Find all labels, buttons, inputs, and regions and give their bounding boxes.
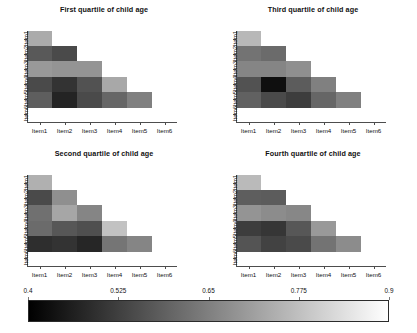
heatmap-cell bbox=[311, 221, 336, 237]
heatmap-cell bbox=[236, 205, 261, 221]
x-axis-tick bbox=[374, 122, 375, 125]
x-axis-label: Item6 bbox=[357, 271, 391, 278]
heatmap-cells bbox=[236, 175, 386, 266]
panel-title: Fourth quartile of child age bbox=[209, 149, 417, 158]
heatmap-cell bbox=[286, 92, 311, 108]
x-axis-tick bbox=[249, 266, 250, 269]
heatmap-cell bbox=[236, 221, 261, 237]
heatmap-cell bbox=[261, 46, 286, 62]
heatmap-cell bbox=[261, 236, 286, 252]
heatmap-cell bbox=[311, 236, 336, 252]
heatmap-cell bbox=[27, 205, 52, 221]
heatmap-cell bbox=[52, 236, 77, 252]
y-axis-label: Item6 bbox=[22, 97, 29, 131]
heatmap-cell bbox=[27, 190, 52, 206]
heatmap-cell bbox=[77, 236, 102, 252]
heatmap-cell bbox=[236, 236, 261, 252]
colorbar-gradient bbox=[28, 300, 389, 322]
colorbar-tick-label: 0.525 bbox=[98, 287, 138, 294]
x-axis-line bbox=[236, 266, 386, 267]
heatmap-cell bbox=[127, 92, 152, 108]
x-axis-line bbox=[27, 122, 177, 123]
heatmap-cell bbox=[127, 236, 152, 252]
heatmap-cell bbox=[336, 92, 361, 108]
x-axis-tick bbox=[90, 122, 91, 125]
panel-fourth-quartile: Fourth quartile of child age Item1Item2I… bbox=[209, 144, 417, 287]
x-axis-tick bbox=[115, 122, 116, 125]
heatmap-cell bbox=[261, 92, 286, 108]
heatmap-cell bbox=[261, 190, 286, 206]
heatmap-cells bbox=[27, 175, 177, 266]
heatmap-cell bbox=[52, 205, 77, 221]
heatmap-cell bbox=[27, 175, 52, 191]
x-axis-label: Item6 bbox=[148, 127, 182, 134]
heatmap-cell bbox=[27, 31, 52, 47]
colorbar-tick-label: 0.9 bbox=[369, 287, 409, 294]
colorbar-tick-mark bbox=[389, 297, 390, 300]
heatmap-cell bbox=[286, 77, 311, 93]
x-axis-tick bbox=[140, 122, 141, 125]
x-axis-tick bbox=[349, 266, 350, 269]
x-axis-tick bbox=[349, 122, 350, 125]
y-axis-label: Item6 bbox=[231, 97, 238, 131]
heatmap-cell bbox=[27, 221, 52, 237]
x-axis-tick bbox=[165, 266, 166, 269]
heatmap-cell bbox=[261, 77, 286, 93]
heatmap-cell bbox=[27, 236, 52, 252]
heatmap-cell bbox=[286, 221, 311, 237]
heatmap-cell bbox=[52, 61, 77, 77]
x-axis-tick bbox=[40, 266, 41, 269]
x-axis-tick bbox=[374, 266, 375, 269]
x-axis-tick bbox=[65, 122, 66, 125]
heatmap-cell bbox=[77, 92, 102, 108]
plot-area bbox=[27, 175, 177, 266]
panel-second-quartile: Second quartile of child age Item1Item2I… bbox=[0, 144, 208, 287]
x-axis-label: Item6 bbox=[357, 127, 391, 134]
panel-title: First quartile of child age bbox=[0, 5, 208, 14]
heatmap-cells bbox=[27, 31, 177, 122]
heatmap-cell bbox=[236, 77, 261, 93]
x-axis-tick bbox=[274, 122, 275, 125]
heatmap-cell bbox=[77, 221, 102, 237]
x-axis-tick bbox=[140, 266, 141, 269]
panel-title: Third quartile of child age bbox=[209, 5, 417, 14]
heatmap-cell bbox=[52, 77, 77, 93]
colorbar-tick-labels: 0.40.5250.650.7750.9 bbox=[0, 286, 417, 298]
heatmap-cell bbox=[236, 92, 261, 108]
y-axis-label: Item6 bbox=[22, 241, 29, 275]
heatmap-cell bbox=[311, 77, 336, 93]
x-axis-tick bbox=[324, 122, 325, 125]
y-axis-label: Item6 bbox=[231, 241, 238, 275]
x-axis-tick bbox=[324, 266, 325, 269]
heatmap-cell bbox=[102, 236, 127, 252]
heatmap-cell bbox=[77, 205, 102, 221]
heatmap-cell bbox=[102, 92, 127, 108]
x-axis-tick bbox=[299, 122, 300, 125]
x-axis-tick bbox=[90, 266, 91, 269]
heatmap-cell bbox=[27, 61, 52, 77]
plot-area bbox=[236, 175, 386, 266]
heatmap-cell bbox=[52, 190, 77, 206]
heatmap-cell bbox=[261, 205, 286, 221]
x-axis-tick bbox=[274, 266, 275, 269]
panel-third-quartile: Third quartile of child age Item1Item2It… bbox=[209, 0, 417, 143]
heatmap-cell bbox=[286, 61, 311, 77]
x-axis-label: Item6 bbox=[148, 271, 182, 278]
x-axis-tick bbox=[40, 122, 41, 125]
heatmap-cell bbox=[311, 92, 336, 108]
heatmap-cell bbox=[52, 46, 77, 62]
heatmap-cell bbox=[336, 236, 361, 252]
heatmap-cell bbox=[236, 61, 261, 77]
x-axis-tick bbox=[65, 266, 66, 269]
panel-first-quartile: First quartile of child age Item1Item2It… bbox=[0, 0, 208, 143]
x-axis-line bbox=[236, 122, 386, 123]
heatmap-cell bbox=[102, 77, 127, 93]
heatmap-cell bbox=[52, 92, 77, 108]
plot-area bbox=[236, 31, 386, 122]
x-axis-tick bbox=[165, 122, 166, 125]
colorbar-tick-label: 0.65 bbox=[189, 287, 229, 294]
x-axis-line bbox=[27, 266, 177, 267]
x-axis-tick bbox=[115, 266, 116, 269]
heatmap-cell bbox=[27, 92, 52, 108]
colorbar-tick-label: 0.4 bbox=[8, 287, 48, 294]
